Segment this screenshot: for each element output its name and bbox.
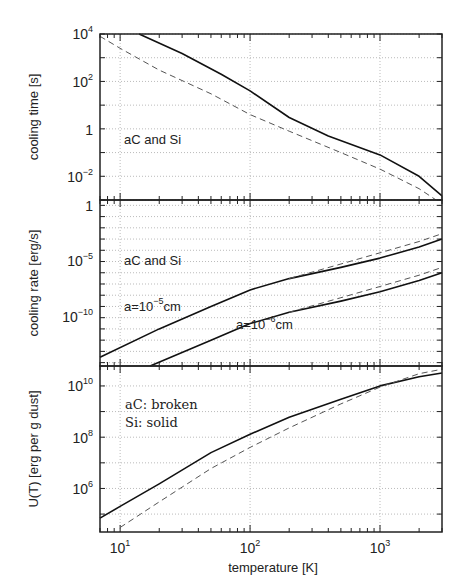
ytick-label: 1: [85, 122, 93, 138]
panel-top-annotation: aC and Si: [124, 132, 181, 147]
panel-middle-ylabel: cooling rate [erg/s]: [26, 230, 41, 337]
curve-solid: [150, 273, 442, 366]
xtick-label: 101: [110, 538, 131, 556]
data-curves: [100, 34, 442, 528]
panel-bottom-frame: [100, 366, 442, 532]
xtick-label: 103: [370, 538, 391, 556]
panel-bottom-ytick-labels: 1010 108 106: [67, 376, 93, 497]
curve-solid: [100, 373, 442, 518]
ytick-label: 102: [72, 72, 93, 90]
ytick-label: 10−5: [67, 251, 93, 269]
ytick-label: 1010: [67, 376, 93, 394]
panel-top-ytick-labels: 104 102 1 10−2: [67, 24, 93, 185]
ytick-label: 10−2: [67, 167, 93, 185]
panel-middle-annotation: aC and Si: [124, 253, 181, 268]
ytick-label: 104: [72, 24, 93, 42]
curve-dashed: [120, 369, 442, 527]
xtick-labels: 101 102 103: [110, 538, 391, 556]
ytick-label: 1: [85, 198, 93, 214]
panel-top-frame: [100, 34, 442, 200]
xtick-label: 102: [240, 538, 261, 556]
panel-bottom-ylabel: U(T) [erg per g dust]: [26, 390, 41, 507]
panel-bottom-annotation-ac: aC: broken: [125, 397, 198, 412]
ytick-label: 106: [72, 479, 93, 497]
curve-label-a1e-6: a=10−6cm: [236, 314, 293, 332]
x-axis-label: temperature [K]: [228, 560, 318, 575]
chart-figure: 104 102 1 10−2 1 10−5 10−10 1010 108 106…: [0, 0, 467, 588]
panel-top-ylabel: cooling time [s]: [26, 74, 41, 161]
curve-solid: [139, 34, 442, 196]
panel-middle-ytick-labels: 1 10−5 10−10: [62, 198, 93, 325]
panel-bottom-annotation-si: Si: solid: [125, 415, 178, 430]
curve-dashed: [289, 234, 442, 279]
curve-dashed: [100, 36, 436, 200]
ytick-label: 108: [72, 428, 93, 446]
ytick-label: 10−10: [62, 307, 93, 325]
curve-label-a1e-5: a=10−5cm: [124, 296, 181, 314]
